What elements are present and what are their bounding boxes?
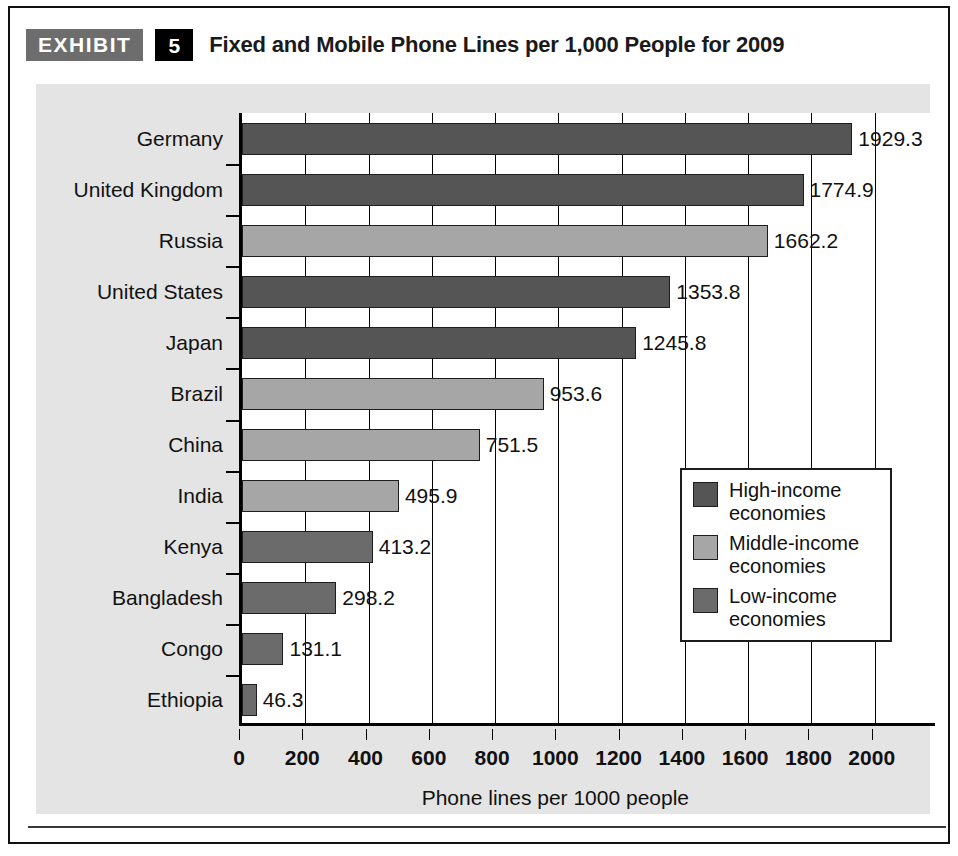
x-axis-tick-label: 200 (285, 746, 320, 770)
bar-value-label: 751.5 (480, 433, 539, 457)
y-axis-category-label: Congo (161, 637, 223, 661)
x-axis-tick (682, 729, 683, 740)
bar-value-label: 1662.2 (768, 229, 838, 253)
y-axis-category-label: Brazil (170, 382, 223, 406)
y-axis-category-label: Bangladesh (112, 586, 223, 610)
bar-row: 1353.8 (242, 276, 935, 308)
x-axis-tick (366, 729, 367, 740)
bar[interactable] (242, 174, 804, 206)
exhibit-number-badge: 5 (155, 29, 193, 61)
bar-value-label: 1245.8 (636, 331, 706, 355)
x-axis-tick (239, 729, 240, 740)
bar-row: 1774.9 (242, 174, 935, 206)
x-axis-tick-label: 400 (348, 746, 383, 770)
x-axis-tick-label: 1400 (659, 746, 706, 770)
bar[interactable] (242, 225, 768, 257)
bar[interactable] (242, 378, 544, 410)
x-axis-tick (302, 729, 303, 740)
y-axis-category-label: India (177, 484, 223, 508)
y-axis-tick (226, 164, 239, 166)
x-axis-tick (555, 729, 556, 740)
x-axis-tick-label: 1600 (722, 746, 769, 770)
bar[interactable] (242, 480, 399, 512)
bar-row: 46.3 (242, 684, 935, 716)
exhibit-frame: EXHIBIT 5 Fixed and Mobile Phone Lines p… (8, 6, 950, 844)
footer-divider (28, 826, 946, 828)
y-axis-category-label: Japan (166, 331, 223, 355)
x-axis-tick-label: 0 (233, 746, 245, 770)
bar-row: 953.6 (242, 378, 935, 410)
exhibit-page: EXHIBIT 5 Fixed and Mobile Phone Lines p… (0, 0, 958, 856)
bar-value-label: 953.6 (544, 382, 603, 406)
y-axis-tick (226, 215, 239, 217)
y-axis-tick (226, 471, 239, 473)
legend-swatch-icon (693, 588, 718, 613)
bar-row: 751.5 (242, 429, 935, 461)
x-axis-tick-label: 1800 (785, 746, 832, 770)
bar[interactable] (242, 123, 852, 155)
exhibit-tag: EXHIBIT (26, 29, 143, 61)
chart-legend: High-income economiesMiddle-income econo… (680, 468, 892, 642)
legend-swatch-icon (693, 535, 718, 560)
x-axis-tick (872, 729, 873, 740)
y-axis-tick (226, 522, 239, 524)
bar-row: 1245.8 (242, 327, 935, 359)
y-axis-category-label: Russia (159, 229, 223, 253)
legend-item[interactable]: Low-income economies (693, 585, 880, 631)
bar-value-label: 298.2 (336, 586, 395, 610)
y-axis-tick (226, 675, 239, 677)
y-axis-category-label: Kenya (163, 535, 223, 559)
x-axis-tick (619, 729, 620, 740)
y-axis-tick (226, 624, 239, 626)
bar[interactable] (242, 582, 336, 614)
bar-value-label: 413.2 (373, 535, 432, 559)
x-axis-tick (429, 729, 430, 740)
y-axis-category-label: Ethiopia (147, 688, 223, 712)
bar-value-label: 1774.9 (804, 178, 874, 202)
y-axis-tick (226, 317, 239, 319)
bar-value-label: 495.9 (399, 484, 458, 508)
exhibit-header: EXHIBIT 5 Fixed and Mobile Phone Lines p… (10, 24, 948, 66)
bar-row: 1662.2 (242, 225, 935, 257)
legend-swatch-icon (693, 482, 718, 507)
bar-value-label: 1353.8 (670, 280, 740, 304)
legend-label: High-income economies (729, 479, 841, 525)
x-axis-tick-label: 600 (411, 746, 446, 770)
x-axis-tick (808, 729, 809, 740)
bar-value-label: 1929.3 (852, 127, 922, 151)
legend-item[interactable]: High-income economies (693, 479, 880, 525)
y-axis-tick (226, 420, 239, 422)
x-axis-tick-label: 2000 (848, 746, 895, 770)
y-axis-category-label: Germany (137, 127, 223, 151)
bar[interactable] (242, 276, 670, 308)
x-axis-tick-label: 1000 (532, 746, 579, 770)
legend-item[interactable]: Middle-income economies (693, 532, 880, 578)
bar-value-label: 131.1 (283, 637, 342, 661)
x-axis-tick (492, 729, 493, 740)
bar-value-label: 46.3 (257, 688, 304, 712)
bar[interactable] (242, 531, 373, 563)
y-axis-tick (226, 266, 239, 268)
x-axis-tick (745, 729, 746, 740)
bar-row: 1929.3 (242, 123, 935, 155)
bar[interactable] (242, 684, 257, 716)
x-axis-tick-label: 800 (475, 746, 510, 770)
y-axis-tick (226, 573, 239, 575)
x-axis-tick-label: 1200 (595, 746, 642, 770)
page-title: Fixed and Mobile Phone Lines per 1,000 P… (209, 32, 784, 58)
legend-label: Low-income economies (729, 585, 837, 631)
bar[interactable] (242, 327, 636, 359)
y-axis-category-label: United Kingdom (74, 178, 223, 202)
legend-label: Middle-income economies (729, 532, 859, 578)
y-axis-tick (226, 368, 239, 370)
chart-container: GermanyUnited KingdomRussiaUnited States… (36, 84, 930, 814)
x-axis-title: Phone lines per 1000 people (422, 786, 689, 810)
bar[interactable] (242, 633, 283, 665)
bar[interactable] (242, 429, 480, 461)
y-axis-category-label: United States (97, 280, 223, 304)
y-axis-category-label: China (168, 433, 223, 457)
